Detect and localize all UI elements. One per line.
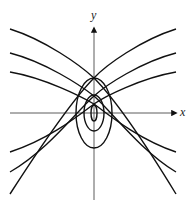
curve-ascending-3 <box>10 72 176 152</box>
curve-descending-3 <box>10 72 176 152</box>
y-axis-label: y <box>91 8 96 23</box>
curve-descending-1 <box>10 29 176 194</box>
diagram-canvas <box>0 0 193 204</box>
x-axis-label: x <box>180 105 185 120</box>
curve-ascending-1 <box>10 29 176 194</box>
